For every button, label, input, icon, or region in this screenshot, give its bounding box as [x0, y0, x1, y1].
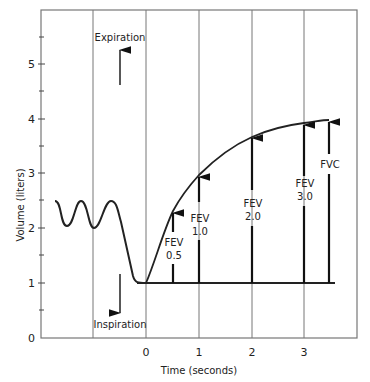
fev20-label-line1: FEV — [244, 198, 263, 209]
fvc-label: FVC — [320, 159, 340, 170]
fev05-label-line2: 0.5 — [166, 250, 182, 261]
y-tick-2: 2 — [28, 222, 35, 235]
y-tick-5: 5 — [28, 58, 35, 71]
y-tick-4: 4 — [28, 113, 35, 126]
y-tick-0: 0 — [28, 332, 35, 345]
expiration-label: Expiration — [95, 32, 146, 43]
x-tick-2: 2 — [249, 346, 256, 359]
y-axis-title: Volume (liters) — [15, 168, 26, 241]
fev30-label-line2: 3.0 — [297, 191, 313, 202]
fev10-label-line2: 1.0 — [192, 226, 208, 237]
spirometry-chart: 0 1 2 3 4 5 0 1 2 3 Time (seconds) Volum… — [0, 0, 370, 382]
x-tick-1: 1 — [196, 346, 203, 359]
inspiration-label: Inspiration — [93, 319, 146, 330]
fev10-label-line1: FEV — [191, 213, 210, 224]
x-tick-3: 3 — [301, 346, 308, 359]
tidal-breathing-curve — [55, 201, 146, 283]
fev30-label-line1: FEV — [296, 178, 315, 189]
fev20-label-line2: 2.0 — [245, 211, 261, 222]
y-tick-1: 1 — [28, 277, 35, 290]
fev05-label-line1: FEV — [165, 237, 184, 248]
vertical-gridlines — [93, 10, 304, 338]
x-axis-title: Time (seconds) — [160, 365, 237, 376]
x-tick-0: 0 — [143, 346, 150, 359]
y-tick-3: 3 — [28, 167, 35, 180]
